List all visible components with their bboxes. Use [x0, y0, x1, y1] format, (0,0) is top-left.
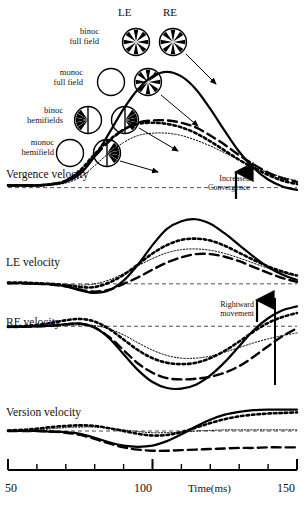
figure-canvas — [0, 0, 305, 505]
stimulus-icon-binoc-hemi-le — [75, 107, 102, 134]
x-axis — [8, 459, 297, 470]
leader-binoc-full — [186, 54, 216, 84]
leader-monoc-hemi — [120, 161, 158, 172]
curve-vergence-dotted-bold — [8, 123, 297, 186]
stimulus-icon-monoc-full-re — [135, 69, 162, 96]
stimulus-icon-monoc-hemi-le — [57, 140, 84, 167]
panel-le — [8, 219, 297, 293]
leader-monoc-full — [161, 95, 198, 126]
stimulus-icon-monoc-full-le — [98, 69, 125, 96]
figure-root: LE RE binoc full field monoc full field … — [0, 0, 305, 505]
stimulus-icon-binoc-full-re — [160, 29, 187, 56]
curve-re-solid — [8, 306, 297, 389]
stimulus-icon-binoc-full-le — [123, 29, 150, 56]
leader-binoc-hemi — [139, 128, 178, 151]
curve-vergence-dashed — [8, 120, 297, 185]
panel-version — [8, 410, 297, 451]
panel-re — [8, 306, 297, 389]
curve-le-solid — [8, 219, 297, 293]
curve-vergence-dotted-fine — [8, 133, 297, 187]
curve-version-dashed — [8, 431, 297, 451]
